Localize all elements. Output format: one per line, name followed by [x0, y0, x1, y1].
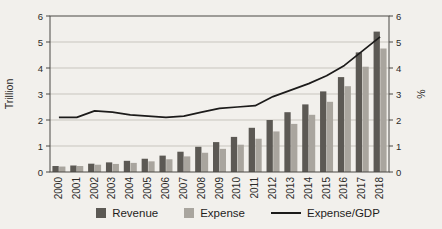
legend-item-expense-gdp: Expense/GDP	[271, 207, 380, 219]
expense-bar-2005	[148, 161, 154, 172]
revenue-bar-2002	[88, 164, 94, 172]
chart-page: 01234560123456Trillion%20002001200220032…	[0, 0, 442, 229]
line-swatch-icon	[271, 212, 301, 214]
revenue-bar-2011	[249, 128, 255, 172]
left-tick-label: 5	[38, 37, 43, 48]
expense-bar-2010	[238, 145, 244, 172]
revenue-bar-2010	[231, 137, 237, 172]
expense-bar-2011	[255, 139, 261, 172]
revenue-bar-2001	[70, 166, 76, 173]
expense-swatch-icon	[184, 208, 194, 218]
revenue-bar-2014	[302, 104, 308, 172]
expense-bar-2013	[291, 124, 297, 172]
revenue-bar-2004	[124, 161, 130, 172]
legend-item-revenue: Revenue	[96, 207, 158, 219]
revenue-bar-2000	[52, 166, 58, 172]
x-tick-label-2010: 2010	[231, 177, 242, 200]
x-tick-label-2014: 2014	[303, 177, 314, 200]
revenue-bar-2007	[177, 152, 183, 172]
expense-bar-2003	[113, 164, 119, 172]
right-tick-label: 6	[396, 11, 401, 22]
x-tick-label-2003: 2003	[106, 177, 117, 200]
right-tick-label: 4	[396, 63, 401, 74]
x-tick-label-2001: 2001	[71, 177, 82, 200]
revenue-bar-2016	[338, 77, 344, 172]
revenue-bar-2015	[320, 91, 326, 172]
revenue-bar-2012	[267, 120, 273, 172]
expense-bar-2016	[345, 86, 351, 172]
x-tick-label-2015: 2015	[321, 177, 332, 200]
expense-bar-2006	[166, 159, 172, 172]
left-tick-label: 3	[38, 89, 43, 100]
revenue-bar-2003	[106, 162, 112, 172]
revenue-bar-2009	[213, 142, 219, 172]
expense-bar-2004	[130, 163, 136, 172]
right-tick-label: 5	[396, 37, 401, 48]
x-tick-label-2013: 2013	[285, 177, 296, 200]
x-tick-label-2004: 2004	[124, 177, 135, 200]
left-axis-title: Trillion	[3, 79, 15, 110]
expense-bar-2014	[309, 115, 315, 172]
x-tick-label-2007: 2007	[178, 177, 189, 200]
chart-area: 01234560123456Trillion%20002001200220032…	[0, 0, 442, 200]
left-tick-label: 2	[38, 115, 43, 126]
revenue-bar-2006	[159, 156, 165, 172]
legend-label-expense-gdp: Expense/GDP	[307, 207, 380, 219]
revenue-bar-2008	[195, 147, 201, 172]
expense-bar-2012	[273, 131, 279, 172]
legend-label-revenue: Revenue	[112, 207, 158, 219]
expense-bar-2009	[220, 149, 226, 172]
chart-legend: Revenue Expense Expense/GDP	[0, 200, 442, 226]
x-tick-label-2008: 2008	[196, 177, 207, 200]
x-tick-label-2006: 2006	[160, 177, 171, 200]
x-tick-label-2002: 2002	[89, 177, 100, 200]
expense-bar-2008	[202, 153, 208, 172]
expense-bar-2018	[380, 49, 386, 173]
expense-bar-2007	[184, 156, 190, 172]
right-axis-title: %	[415, 89, 427, 98]
x-tick-label-2011: 2011	[249, 177, 260, 199]
left-tick-label: 4	[38, 63, 43, 74]
legend-label-expense: Expense	[200, 207, 245, 219]
left-tick-label: 6	[38, 11, 43, 22]
right-tick-label: 3	[396, 89, 401, 100]
x-tick-label-2018: 2018	[374, 177, 385, 200]
expense-bar-2000	[59, 167, 65, 172]
right-tick-label: 0	[396, 167, 401, 178]
x-tick-label-2000: 2000	[53, 177, 64, 200]
revenue-bar-2017	[356, 52, 362, 172]
revenue-bar-2018	[374, 32, 380, 172]
left-tick-label: 1	[38, 141, 43, 152]
x-tick-label-2012: 2012	[267, 177, 278, 200]
expense-bar-2001	[77, 166, 83, 172]
expense-bar-2015	[327, 102, 333, 172]
revenue-swatch-icon	[96, 208, 106, 218]
left-tick-label: 0	[38, 167, 43, 178]
expense-bar-2002	[95, 165, 101, 172]
right-tick-label: 1	[396, 141, 401, 152]
expense-bar-2017	[362, 67, 368, 172]
x-tick-label-2005: 2005	[142, 177, 153, 200]
x-tick-label-2016: 2016	[338, 177, 349, 200]
x-tick-label-2009: 2009	[214, 177, 225, 200]
x-tick-label-2017: 2017	[356, 177, 367, 200]
revenue-bar-2013	[284, 112, 290, 172]
revenue-bar-2005	[142, 159, 148, 172]
right-tick-label: 2	[396, 115, 401, 126]
legend-item-expense: Expense	[184, 207, 245, 219]
bar-line-chart: 01234560123456Trillion%20002001200220032…	[0, 0, 442, 200]
